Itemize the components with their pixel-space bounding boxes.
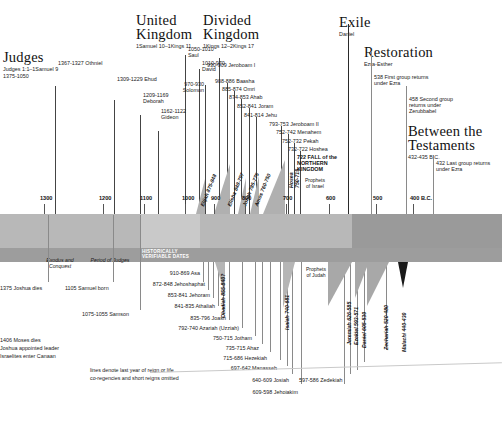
label-saul-name: Saul: [188, 52, 199, 59]
era-between-title-1: Between the: [408, 124, 482, 138]
label-jeroboam-ii: 793-753 Jeroboam II: [269, 121, 319, 128]
tickmark-1100: [144, 204, 145, 214]
footnote-line2: co-regencies and short reigns omitted: [90, 374, 179, 383]
label-asa: 910-869 Asa: [120, 270, 200, 277]
label-ahab: 874-853 Ahab: [229, 94, 263, 101]
tickmark-400: [413, 204, 414, 214]
era-restoration-ref: Ezra-Esther: [364, 61, 433, 68]
rule-last-return: [433, 155, 434, 214]
tickmark-700: [286, 204, 287, 214]
axis-tick-500: 500: [373, 195, 382, 201]
era-between-testaments: Between the Testaments 432-435 B.C.: [408, 124, 482, 161]
label-moses-line2: Joshua appointed leader: [0, 345, 59, 352]
rule-hezekiah: [270, 262, 271, 352]
label-joash: 835-796 Joash: [140, 315, 226, 322]
era-restoration: Restoration Ezra-Esther: [364, 45, 433, 68]
label-moses-line1: 1406 Moses dies: [0, 337, 41, 344]
vlabel-isaiah: Isaiah 740-681: [284, 295, 290, 330]
label-jeroboam-i: 930-909 Jeroboam I: [207, 62, 255, 69]
wedge-malachi: [398, 262, 408, 288]
era-divided-title-2: Kingdom: [203, 27, 259, 41]
rule-jehoram: [213, 262, 214, 298]
axis-tick-800: 800: [242, 195, 251, 201]
tickmark-500: [376, 204, 377, 214]
vlabel-obadiah: Obadiah 855-840?: [220, 274, 226, 318]
label-samson: 1075-1055 Samson: [82, 311, 129, 318]
label-samuel-born: 1105 Samuel born: [65, 285, 109, 292]
axis-tick-900: 900: [211, 195, 220, 201]
label-ahaz: 735-715 Ahaz: [170, 345, 259, 352]
label-jehoshaphat: 872-848 Jehoshaphat: [110, 281, 205, 288]
note-prophets-judah: Prophets of Judah: [296, 266, 336, 278]
axis-tick-1200: 1200: [99, 195, 111, 201]
label-fall-line3: KINGDOM: [297, 166, 323, 173]
label-joram: 852-841 Joram: [237, 103, 273, 110]
era-restoration-title: Restoration: [364, 45, 433, 59]
note-prophets-israel-line2: of Israel: [295, 183, 335, 189]
label-period-of-judges: Period of Judges: [75, 257, 145, 263]
wedge-elisha: [214, 164, 230, 214]
tickmark-1200: [103, 204, 104, 214]
era-judges-years: 1375-1050: [3, 73, 58, 80]
rule-restoration: [371, 52, 372, 214]
era-exile-ref: Daniel: [339, 31, 371, 38]
tickmark-900: [214, 204, 215, 214]
vlabel-ezekiel: Ezekiel 593-571: [353, 307, 359, 345]
rule-manasseh: [280, 262, 281, 360]
rule-azariah: [242, 262, 243, 328]
era-divided-kingdom: Divided Kingdom 1Kings 12–2Kings 17: [203, 13, 259, 50]
era-exile-title: Exile: [339, 15, 371, 29]
rule-ehud: [114, 100, 115, 214]
label-moses-line3: Israelites enter Canaan: [0, 353, 56, 360]
vlabel-daniel: Daniel 605-530: [361, 312, 367, 348]
label-jotham: 750-715 Jotham: [160, 335, 252, 342]
rule-exile: [348, 24, 349, 214]
axis-tick-1000: 1000: [182, 195, 194, 201]
rule-gideon: [158, 131, 159, 214]
label-gideon-name: Gideon: [161, 114, 178, 121]
rule-ahaz: [262, 262, 263, 344]
axis-tick-400: 400 B.C.: [410, 195, 432, 201]
rule-joshua-dies: [48, 215, 49, 282]
label-last-return-line2: under Ezra: [436, 166, 462, 173]
label-hvd-line2: VERIFIABLE DATES: [142, 254, 189, 260]
era-united-ref: 1Samuel 10–1Kings 11: [136, 43, 192, 50]
label-jehoram: 853-841 Jehoram: [120, 292, 210, 299]
axis-tick-1300: 1300: [40, 195, 52, 201]
wedge-daniel: [367, 262, 389, 306]
era-between-title-2: Testaments: [408, 138, 482, 152]
label-pekah: 752-732 Pekah: [282, 138, 319, 145]
rule-jehoshaphat: [208, 262, 209, 290]
tickmark-800: [245, 204, 246, 214]
tickmark-1000: [185, 204, 186, 214]
label-jehu: 841-814 Jehu: [244, 112, 277, 119]
era-judges-ref: Judges 1:1–1Samuel 9: [3, 66, 58, 73]
era-united-kingdom: United Kingdom 1Samuel 10–1Kings 11: [136, 13, 192, 50]
label-hoshea: 732-722 Hoshea: [288, 146, 328, 153]
note-prophets-israel: Prophets of Israel: [295, 177, 335, 189]
label-azariah: 792-740 Azariah (Uzziah): [130, 325, 239, 332]
label-deborah-name: Deborah: [143, 98, 164, 105]
rule-othniel: [55, 86, 56, 214]
label-first-return-line2: under Ezra: [374, 80, 400, 87]
rule-samuel-born: [113, 215, 114, 282]
rule-joash: [229, 262, 230, 320]
rule-saul: [185, 55, 186, 214]
axis-tick-1100: 1100: [140, 195, 152, 201]
label-baasha: 908-886 Baasha: [215, 78, 255, 85]
label-zedekiah: 597-586 Zedekiah: [299, 377, 342, 384]
tickmark-600: [329, 204, 330, 214]
label-jehoiakim: 609-598 Jehoiakim: [205, 389, 298, 396]
era-judges-title: Judges: [3, 50, 58, 64]
label-josiah: 640-609 Josiah: [200, 377, 289, 384]
note-prophets-judah-line2: of Judah: [296, 272, 336, 278]
rule-jotham: [255, 262, 256, 336]
era-divided-title-1: Divided: [203, 13, 259, 27]
rule-jehoiakim: [301, 262, 302, 384]
label-second-return-line3: Zerubbabel: [409, 108, 436, 115]
vlabel-hosea-years: 750-715: [294, 169, 300, 188]
label-joshua-dies: 1375 Joshua dies: [0, 285, 42, 292]
rule-second-return: [406, 86, 407, 214]
axis-tick-600: 600: [326, 195, 335, 201]
axis-tick-700: 700: [283, 195, 292, 201]
